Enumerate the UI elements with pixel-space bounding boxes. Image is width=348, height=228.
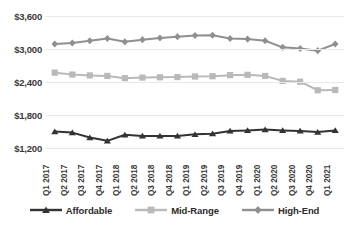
x-axis-tick-text: Q3 2020	[288, 165, 297, 196]
legend-diamond-icon	[241, 204, 275, 216]
x-axis-tick-text: Q4 2018	[165, 165, 174, 196]
data-point-marker	[52, 70, 58, 76]
series-affordable	[51, 126, 339, 143]
gridline	[46, 115, 344, 116]
series-high-end	[52, 32, 339, 55]
legend-item-affordable[interactable]: Affordable	[29, 204, 113, 216]
data-point-marker	[280, 78, 286, 84]
x-axis: Q1 2017Q2 2017Q3 2017Q4 2017Q1 2018Q2 20…	[46, 150, 344, 194]
data-point-marker	[209, 73, 215, 79]
gridline	[46, 16, 344, 17]
legend-square-icon	[134, 204, 168, 216]
data-point-marker	[87, 72, 93, 78]
data-point-marker	[139, 36, 146, 43]
data-point-marker	[174, 74, 180, 80]
data-point-marker	[262, 37, 269, 44]
data-point-marker	[69, 71, 75, 77]
data-point-marker	[104, 35, 111, 42]
x-axis-tick-text: Q3 2017	[77, 165, 86, 196]
data-point-marker	[174, 33, 181, 40]
x-axis-tick-text: Q4 2020	[305, 165, 314, 196]
legend-label: Mid-Range	[171, 205, 219, 216]
legend-triangle-icon	[29, 204, 63, 216]
x-axis-tick-text: Q1 2019	[182, 165, 191, 196]
data-point-marker	[227, 72, 233, 78]
data-point-marker	[122, 38, 129, 45]
data-point-marker	[332, 40, 339, 47]
data-point-marker	[209, 32, 216, 39]
data-point-marker	[192, 32, 199, 39]
y-axis-tick-label: $3,600	[14, 11, 42, 22]
x-axis-tick-text: Q3 2018	[147, 165, 156, 196]
x-axis-tick-text: Q2 2018	[130, 165, 139, 196]
x-axis-tick-text: Q1 2021	[323, 165, 332, 196]
y-axis-tick-label: $2,400	[14, 77, 42, 88]
x-axis-tick-text: Q1 2017	[42, 165, 51, 196]
x-axis-tick-text: Q2 2019	[200, 165, 209, 196]
data-point-marker	[332, 87, 338, 93]
data-point-marker	[69, 39, 76, 46]
data-point-marker	[139, 75, 145, 81]
legend-label: High-End	[278, 205, 319, 216]
y-axis-tick-label: $3,000	[14, 44, 42, 55]
data-point-marker	[157, 74, 163, 80]
data-point-marker	[104, 73, 110, 79]
x-axis-tick-text: Q4 2019	[235, 165, 244, 196]
data-point-marker	[52, 40, 59, 47]
y-axis-tick-label: $1,800	[14, 110, 42, 121]
data-point-marker	[122, 75, 128, 81]
data-point-marker	[87, 37, 94, 44]
plot-area	[46, 16, 344, 148]
y-axis-tick-label: $1,200	[14, 143, 42, 154]
data-point-marker	[192, 73, 198, 79]
gridline	[46, 148, 344, 149]
x-axis-tick-text: Q1 2018	[112, 165, 121, 196]
legend-item-mid-range[interactable]: Mid-Range	[134, 204, 219, 216]
data-point-marker	[244, 72, 250, 78]
quarterly-price-line-chart: $1,200$1,800$2,400$3,000$3,600 Q1 2017Q2…	[0, 0, 348, 228]
gridline	[46, 82, 344, 83]
x-axis-tick-text: Q4 2017	[95, 165, 104, 196]
x-axis-tick-text: Q3 2019	[217, 165, 226, 196]
data-point-marker	[227, 35, 234, 42]
legend-label: Affordable	[66, 205, 113, 216]
chart-legend: AffordableMid-RangeHigh-End	[0, 198, 348, 222]
data-point-marker	[262, 73, 268, 79]
legend-item-high-end[interactable]: High-End	[241, 204, 319, 216]
data-point-marker	[244, 36, 251, 43]
x-axis-tick-text: Q1 2020	[253, 165, 262, 196]
data-point-marker	[315, 87, 321, 93]
y-axis: $1,200$1,800$2,400$3,000$3,600	[0, 0, 42, 160]
x-axis-tick-text: Q2 2020	[270, 165, 279, 196]
data-point-marker	[157, 34, 164, 41]
x-axis-tick-text: Q2 2017	[60, 165, 69, 196]
gridline	[46, 49, 344, 50]
